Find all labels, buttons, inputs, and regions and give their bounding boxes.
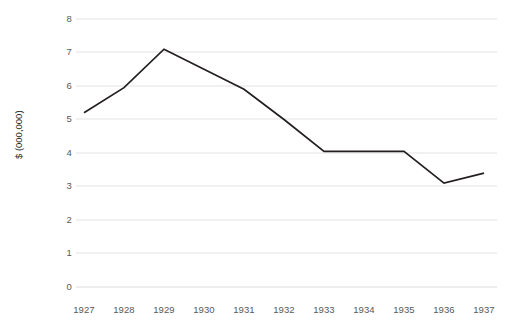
y-tick-label-4: 4 — [52, 148, 72, 158]
y-tick-label-0: 0 — [52, 282, 72, 292]
y-tick-label-1: 1 — [52, 248, 72, 258]
y-tick-label-7: 7 — [52, 47, 72, 57]
y-tick-label-8: 8 — [52, 14, 72, 24]
x-tick-label-1929: 1929 — [144, 305, 184, 315]
x-tick-label-1936: 1936 — [424, 305, 464, 315]
x-tick-label-1931: 1931 — [224, 305, 264, 315]
x-tick-label-1937: 1937 — [464, 305, 504, 315]
x-tick-label-1932: 1932 — [264, 305, 304, 315]
data-series-line — [84, 49, 484, 183]
x-tick-label-1930: 1930 — [184, 305, 224, 315]
x-tick-label-1934: 1934 — [344, 305, 384, 315]
x-tick-label-1928: 1928 — [104, 305, 144, 315]
line-chart: $ (000,000) 8 7 6 5 4 3 2 1 0 1927 1928 … — [0, 0, 508, 332]
y-tick-label-2: 2 — [52, 215, 72, 225]
x-tick-label-1933: 1933 — [304, 305, 344, 315]
plot-area — [0, 0, 508, 332]
x-tick-label-1935: 1935 — [384, 305, 424, 315]
y-tick-label-3: 3 — [52, 181, 72, 191]
x-tick-label-1927: 1927 — [64, 305, 104, 315]
y-tick-label-6: 6 — [52, 81, 72, 91]
gridlines-group — [76, 19, 497, 287]
y-tick-label-5: 5 — [52, 114, 72, 124]
